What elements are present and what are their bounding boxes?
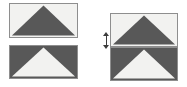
- height-arrow-marker: [103, 32, 110, 49]
- tile-separated-top: [9, 3, 78, 38]
- triangle-dark-up-icon: [111, 14, 177, 46]
- joined-tile-group: [110, 13, 178, 81]
- tile-separated-bottom: [9, 45, 78, 79]
- tile-joined-bottom: [110, 47, 178, 81]
- separated-tile-group: [9, 3, 78, 79]
- triangle-light-up-icon: [10, 46, 77, 78]
- tile-joined-top: [110, 13, 178, 47]
- arrow-head-down-icon: [103, 45, 109, 49]
- figure-canvas: [0, 0, 187, 87]
- triangle-light-up-icon: [111, 48, 177, 80]
- triangle-dark-up-icon: [10, 4, 77, 37]
